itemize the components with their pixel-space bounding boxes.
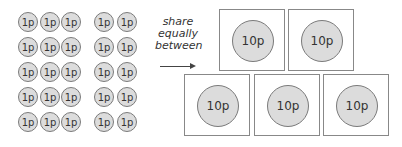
- coin-1p: 1p: [61, 112, 81, 132]
- coin-1p: 1p: [40, 87, 60, 107]
- coin-1p: 1p: [117, 12, 137, 32]
- coin-1p: 1p: [94, 87, 114, 107]
- right-arrow-icon: [160, 66, 194, 67]
- coin-1p: 1p: [94, 12, 114, 32]
- coin-10p: 10p: [232, 20, 274, 62]
- coin-1p: 1p: [40, 112, 60, 132]
- coin-1p: 1p: [18, 112, 38, 132]
- coin-1p: 1p: [117, 62, 137, 82]
- coin-1p: 1p: [94, 62, 114, 82]
- coin-1p: 1p: [18, 87, 38, 107]
- coin-1p: 1p: [18, 62, 38, 82]
- share-box-5: 10p: [323, 74, 389, 136]
- coin-10p: 10p: [336, 85, 378, 127]
- share-box-2: 10p: [288, 9, 354, 71]
- coin-10p: 10p: [301, 20, 343, 62]
- coin-1p: 1p: [94, 112, 114, 132]
- coin-1p: 1p: [117, 112, 137, 132]
- coin-1p: 1p: [18, 37, 38, 57]
- coin-1p: 1p: [61, 62, 81, 82]
- coin-10p: 10p: [197, 85, 239, 127]
- coin-1p: 1p: [117, 87, 137, 107]
- coin-1p: 1p: [61, 87, 81, 107]
- instruction-line-3: between: [155, 40, 201, 52]
- coin-1p: 1p: [117, 37, 137, 57]
- share-box-4: 10p: [254, 74, 320, 136]
- coin-1p: 1p: [40, 37, 60, 57]
- share-box-3: 10p: [184, 74, 250, 136]
- coin-1p: 1p: [40, 62, 60, 82]
- coin-1p: 1p: [40, 12, 60, 32]
- coin-1p: 1p: [61, 37, 81, 57]
- coin-1p: 1p: [94, 37, 114, 57]
- coin-10p: 10p: [267, 85, 309, 127]
- coin-1p: 1p: [61, 12, 81, 32]
- share-box-1: 10p: [219, 9, 285, 71]
- coin-1p: 1p: [18, 12, 38, 32]
